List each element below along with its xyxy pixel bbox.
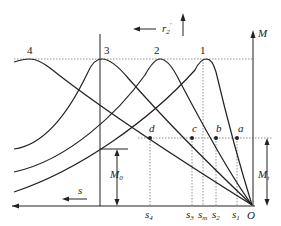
torque-slip-diagram: 4 3 2 1 a b c d s4 s3 sm s2 s1 M O s r2′… <box>0 0 281 226</box>
label-r2: r2′ <box>162 21 172 36</box>
point-a <box>235 136 239 140</box>
r2-arrow-icon <box>133 27 140 32</box>
label-s: s <box>78 184 82 196</box>
label-O: O <box>247 209 255 221</box>
s-axis-arrow-icon <box>12 204 19 209</box>
mt-up-arrow-icon <box>265 138 270 145</box>
label-s2: s2 <box>212 208 220 222</box>
curve-label-1: 1 <box>200 44 206 56</box>
label-Mt: Mt <box>257 168 270 182</box>
m0-down-arrow-icon <box>115 199 120 206</box>
curve-label-3: 3 <box>104 44 110 56</box>
s-dir-arrow-icon <box>62 197 69 202</box>
point-c <box>190 136 194 140</box>
label-M0: M0 <box>109 168 123 182</box>
point-b <box>214 136 218 140</box>
point-d <box>148 136 152 140</box>
label-sm: sm <box>198 208 207 222</box>
label-c: c <box>192 122 197 134</box>
label-s3: s3 <box>186 208 194 222</box>
r2-up-arrow-icon <box>181 13 186 21</box>
curve-label-4: 4 <box>27 44 33 56</box>
m-axis-arrow-icon <box>251 30 256 38</box>
curve-label-2: 2 <box>154 44 160 56</box>
m0-up-arrow-icon <box>115 149 120 156</box>
label-s4: s4 <box>145 208 153 222</box>
label-b: b <box>216 122 222 134</box>
label-s1: s1 <box>232 208 240 222</box>
mt-down-arrow-icon <box>265 199 270 206</box>
label-d: d <box>149 122 155 134</box>
label-M: M <box>257 27 268 39</box>
label-a: a <box>238 122 244 134</box>
